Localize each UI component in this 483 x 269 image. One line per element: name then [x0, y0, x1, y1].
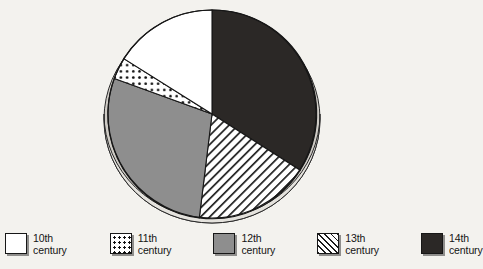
legend-label-13th-century: 13th century — [345, 228, 379, 256]
legend-label-line1: 10th — [33, 232, 53, 244]
legend-label-10th-century: 10th century — [33, 228, 67, 256]
legend-label-line2: century — [33, 245, 67, 257]
black-swatch — [421, 233, 443, 254]
legend-label-line1: 14th — [449, 232, 469, 244]
legend-item-12th-century[interactable]: 12th century — [213, 228, 275, 256]
legend-item-11th-century[interactable]: 11th century — [110, 228, 172, 256]
chart-legend: 10th century 11th century 12th century — [0, 228, 430, 269]
legend-label-line2: century — [449, 245, 483, 257]
pie-plot-area — [0, 0, 430, 228]
legend-item-10th-century[interactable]: 10th century — [5, 228, 67, 256]
pie-svg — [0, 0, 430, 228]
legend-label-line1: 11th — [138, 232, 157, 244]
gray-swatch — [213, 233, 235, 254]
legend-label-line1: 13th — [345, 232, 365, 244]
legend-label-line2: century — [241, 245, 275, 257]
legend-label-14th-century: 14th century — [449, 228, 483, 256]
legend-label-line2: century — [138, 245, 172, 257]
dotted-swatch — [110, 233, 132, 254]
white-swatch — [5, 233, 27, 254]
legend-label-11th-century: 11th century — [138, 228, 172, 256]
hatched-swatch — [317, 233, 339, 254]
legend-label-line1: 12th — [241, 232, 261, 244]
legend-label-12th-century: 12th century — [241, 228, 275, 256]
legend-item-13th-century[interactable]: 13th century — [317, 228, 379, 256]
legend-label-line2: century — [345, 245, 379, 257]
legend-item-14th-century[interactable]: 14th century — [421, 228, 483, 256]
